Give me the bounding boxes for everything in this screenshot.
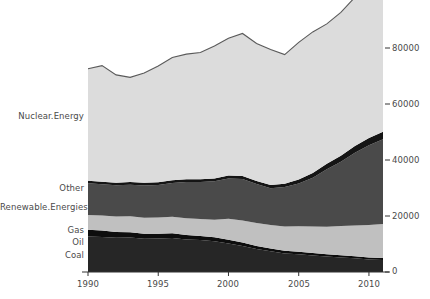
- series-label-other: Other: [0, 183, 84, 193]
- xtick-label-1990: 1990: [72, 279, 104, 289]
- ytick-label-60000: 60000: [392, 99, 420, 109]
- stacked-area-chart: 80000 60000 40000 20000 0 1990 1995 2000…: [0, 0, 430, 299]
- ytick-label-0: 0: [392, 266, 398, 276]
- ytick-label-80000: 80000: [392, 43, 420, 53]
- series-label-coal: Coal: [0, 250, 84, 260]
- ytick-label-40000: 40000: [392, 155, 420, 165]
- xtick-label-2000: 2000: [212, 279, 244, 289]
- series-label-renewable-energies: Renewable.Energies: [0, 202, 84, 212]
- area-series-group: [88, 0, 383, 272]
- xtick-label-2005: 2005: [283, 279, 315, 289]
- series-label-gas: Gas: [0, 225, 84, 235]
- series-label-oil: Oil: [0, 237, 84, 247]
- ytick-label-20000: 20000: [392, 211, 420, 221]
- series-label-nuclear-energy: Nuclear.Energy: [0, 111, 84, 121]
- xtick-label-2010: 2010: [353, 279, 385, 289]
- xtick-label-1995: 1995: [142, 279, 174, 289]
